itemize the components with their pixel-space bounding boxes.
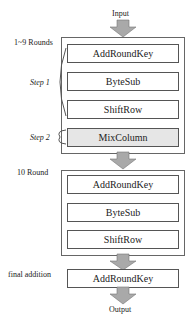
input-label: Input	[112, 9, 129, 18]
step-mixcolumn: MixColumn	[67, 128, 179, 147]
step-addroundkey: AddRoundKey	[67, 175, 179, 194]
arrow-down-icon	[110, 20, 136, 38]
final-addition-label: final addition	[8, 270, 51, 279]
arrow-down-icon	[110, 152, 136, 170]
rounds-1-9-label: 1~9 Rounds	[14, 38, 53, 47]
step2-brace-icon	[56, 129, 68, 145]
step-bytesub: ByteSub	[67, 203, 179, 222]
round-10-label: 10 Round	[17, 168, 48, 177]
final-addroundkey: AddRoundKey	[67, 269, 179, 288]
step1-label: Step 1	[30, 78, 50, 87]
output-label: Output	[109, 305, 131, 314]
step1-brace-icon	[52, 46, 72, 118]
step-shiftrow: ShiftRow	[67, 100, 179, 119]
step-addroundkey: AddRoundKey	[67, 44, 179, 63]
step-bytesub: ByteSub	[67, 72, 179, 91]
step2-label: Step 2	[30, 133, 50, 142]
arrow-down-icon	[110, 287, 136, 305]
step-shiftrow: ShiftRow	[67, 230, 179, 249]
